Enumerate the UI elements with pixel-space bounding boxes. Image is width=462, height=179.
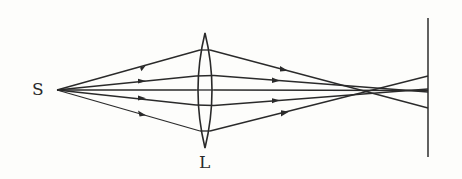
- refracted-rays: [210, 50, 428, 131]
- lens-internal-rays: [196, 50, 214, 131]
- incident-rays: [57, 50, 200, 131]
- optics-diagram: S L: [0, 0, 462, 179]
- refracted-arrow-icons: [272, 66, 289, 116]
- lens-label: L: [199, 154, 210, 171]
- source-label: S: [32, 81, 44, 98]
- ray-diagram-canvas: [0, 0, 462, 179]
- incident-arrow-icons: [138, 65, 146, 116]
